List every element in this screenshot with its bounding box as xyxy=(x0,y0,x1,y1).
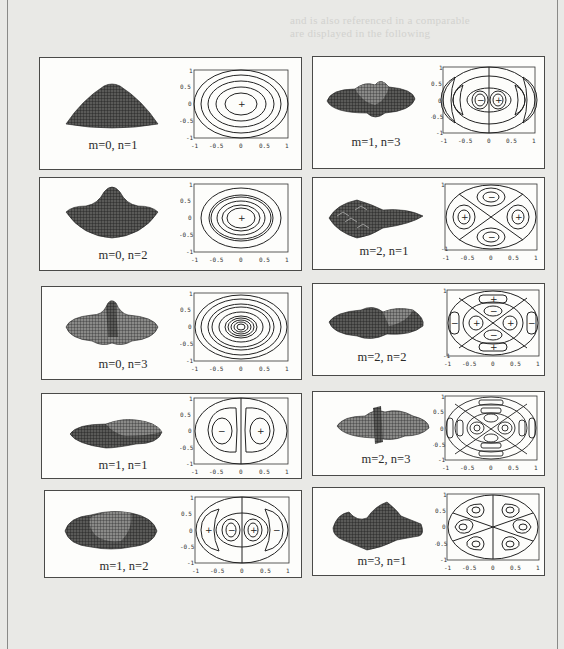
svg-text:0.5: 0.5 xyxy=(259,142,270,149)
surface-plot-m2-n2 xyxy=(327,300,427,350)
contour-plot-m0-n1: + 1 0.5 0 -0.5 -1 -1 -0.5 0 0.5 1 xyxy=(180,66,298,156)
svg-text:0: 0 xyxy=(188,323,192,330)
svg-text:-1: -1 xyxy=(191,142,199,149)
svg-text:0.5: 0.5 xyxy=(508,464,519,471)
svg-text:+: + xyxy=(250,525,258,535)
svg-text:−: − xyxy=(488,192,496,202)
mode-panel-m2-n1: m=2, n=1 − − + + 1 -1 -1 -0.5 0 0.5 1 xyxy=(312,177,545,270)
svg-text:1: 1 xyxy=(441,394,445,400)
svg-text:-1: -1 xyxy=(186,357,194,364)
mode-panel-m1-n3: m=1, n=3 − + 1 0.5 0 -0.5 -1 -1 -0.5 xyxy=(312,56,545,169)
svg-text:+: + xyxy=(473,318,481,328)
svg-text:1: 1 xyxy=(534,254,538,261)
svg-text:−: − xyxy=(218,426,226,436)
mode-label: m=0, n=1 xyxy=(78,138,148,153)
svg-text:+: + xyxy=(238,213,246,223)
svg-text:1: 1 xyxy=(443,492,447,498)
svg-text:-1: -1 xyxy=(186,460,194,467)
svg-text:-1: -1 xyxy=(444,564,452,571)
svg-text:-0.5: -0.5 xyxy=(460,254,475,261)
svg-text:0: 0 xyxy=(188,427,192,434)
svg-text:-0.5: -0.5 xyxy=(180,231,194,238)
svg-text:1: 1 xyxy=(439,64,443,71)
svg-text:0: 0 xyxy=(487,137,491,144)
svg-text:0.5: 0.5 xyxy=(259,256,270,263)
svg-text:-1: -1 xyxy=(442,464,450,471)
svg-text:1: 1 xyxy=(190,494,194,501)
svg-text:+: + xyxy=(490,294,498,304)
surface-plot-m0-n2 xyxy=(62,184,162,244)
svg-text:-1: -1 xyxy=(186,134,194,141)
svg-text:-0.5: -0.5 xyxy=(462,360,477,367)
svg-text:1: 1 xyxy=(189,67,193,74)
svg-text:0: 0 xyxy=(189,527,193,534)
svg-text:-1: -1 xyxy=(436,129,444,136)
svg-text:+: + xyxy=(257,426,265,436)
surface-plot-m0-n1 xyxy=(62,80,162,130)
svg-text:-0.5: -0.5 xyxy=(458,137,473,144)
svg-text:-1: -1 xyxy=(191,468,199,475)
svg-text:-0.5: -0.5 xyxy=(209,256,224,263)
svg-text:-0.5: -0.5 xyxy=(462,564,477,571)
svg-text:-0.5: -0.5 xyxy=(180,444,194,451)
svg-text:0.5: 0.5 xyxy=(259,468,270,475)
svg-text:1: 1 xyxy=(189,181,193,188)
svg-text:0: 0 xyxy=(239,365,243,372)
svg-text:-0.5: -0.5 xyxy=(210,567,225,574)
svg-text:0.5: 0.5 xyxy=(259,365,270,372)
mode-label: m=0, n=3 xyxy=(88,357,158,372)
svg-text:−: − xyxy=(490,306,498,316)
svg-text:-0.5: -0.5 xyxy=(433,441,446,448)
contour-plot-m1-n2: + − + − 1 0.5 0 -0.5 -1 -1 -0.5 0 0.5 1 xyxy=(179,493,299,579)
mode-label: m=1, n=3 xyxy=(341,135,411,150)
mode-label: m=1, n=2 xyxy=(89,559,159,574)
svg-text:−: − xyxy=(273,525,281,535)
svg-text:-1: -1 xyxy=(186,248,194,255)
svg-text:0.5: 0.5 xyxy=(180,306,191,313)
mode-label: m=0, n=2 xyxy=(88,248,158,263)
svg-text:−: − xyxy=(451,318,459,328)
svg-text:-0.5: -0.5 xyxy=(180,340,194,347)
svg-text:0: 0 xyxy=(442,523,446,530)
mode-label: m=2, n=1 xyxy=(349,244,419,259)
svg-text:-0.5: -0.5 xyxy=(209,142,224,149)
svg-text:1: 1 xyxy=(285,468,289,475)
mode-panel-m3-n1: m=3, n=1 1 0.5 0 -0.5 -1 -1 xyxy=(312,487,545,576)
svg-text:1: 1 xyxy=(189,396,193,402)
svg-text:0: 0 xyxy=(188,214,192,221)
svg-text:-0.5: -0.5 xyxy=(435,540,448,547)
svg-text:−: − xyxy=(477,95,485,105)
svg-text:0.5: 0.5 xyxy=(510,360,521,367)
mode-panel-m0-n3: m=0, n=3 1 0.5 0 -0.5 -1 -1 -0.5 0 0.5 1 xyxy=(41,286,302,380)
svg-text:-1: -1 xyxy=(192,567,200,574)
bleed-through-text-1: and is also referenced in a comparable xyxy=(290,14,470,26)
svg-text:-0.5: -0.5 xyxy=(180,117,194,124)
svg-text:1: 1 xyxy=(286,567,290,574)
contour-plot-m1-n1: − + 1 0.5 0 -0.5 -1 -1 -0.5 0 0.5 1 xyxy=(180,396,298,480)
svg-text:0: 0 xyxy=(239,256,243,263)
svg-text:0: 0 xyxy=(239,468,243,475)
svg-text:+: + xyxy=(461,212,469,222)
mode-panel-m0-n2: m=0, n=2 + 1 0.5 0 -0.5 -1 -1 -0.5 0 0.5… xyxy=(39,177,302,271)
svg-text:-0.5: -0.5 xyxy=(460,464,475,471)
bleed-through-text-2: are displayed in the following xyxy=(290,27,430,39)
mode-panel-m1-n1: m=1, n=1 − + 1 0.5 0 -0.5 -1 -1 -0.5 0 0… xyxy=(41,393,302,479)
contour-plot-m2-n2: + + − − − − + + 1 -1 -1 -0.5 0 0.5 1 xyxy=(435,286,545,372)
svg-text:0.5: 0.5 xyxy=(508,254,519,261)
svg-text:-1: -1 xyxy=(191,365,199,372)
contour-plot-m2-n3: 1 0.5 0 -0.5 -1 -1 -0.5 0 0.5 1 xyxy=(433,394,545,476)
svg-text:-0.5: -0.5 xyxy=(209,468,224,475)
svg-text:1: 1 xyxy=(534,464,538,471)
svg-text:-1: -1 xyxy=(187,559,195,566)
surface-plot-m0-n3 xyxy=(62,297,162,352)
contour-plot-m0-n2: + 1 0.5 0 -0.5 -1 -1 -0.5 0 0.5 1 xyxy=(180,180,298,270)
svg-text:0.5: 0.5 xyxy=(431,80,442,87)
svg-text:0.5: 0.5 xyxy=(510,564,521,571)
svg-text:0.5: 0.5 xyxy=(181,510,192,517)
svg-text:0: 0 xyxy=(489,464,493,471)
svg-text:1: 1 xyxy=(189,290,193,297)
mode-panel-m0-n1: m=0, n=1 + 1 0.5 0 -0.5 -1 -1 -0.5 0 0.5… xyxy=(39,57,302,170)
svg-text:1: 1 xyxy=(443,287,447,294)
svg-text:-1: -1 xyxy=(191,256,199,263)
contour-plot-m3-n1: 1 0.5 0 -0.5 -1 -1 -0.5 0 0.5 1 xyxy=(435,492,545,576)
